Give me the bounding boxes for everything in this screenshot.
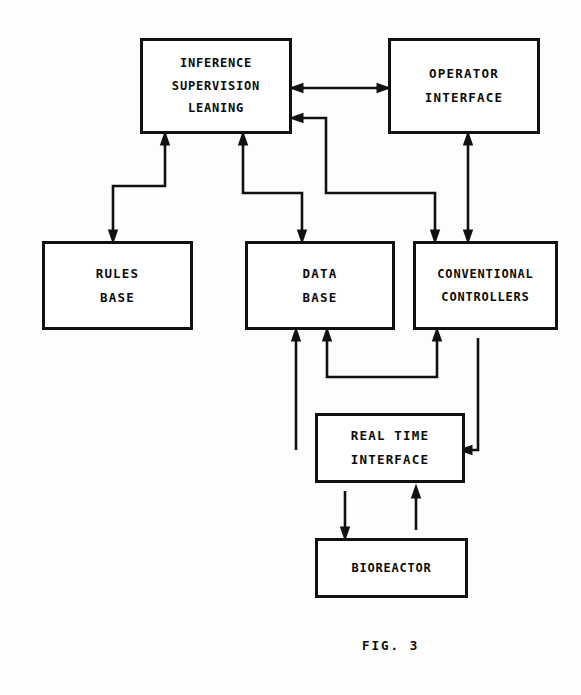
node-operator_interface-line: INTERFACE bbox=[425, 86, 504, 110]
node-real_time_interface-line: REAL TIME bbox=[351, 424, 430, 448]
edge-realtime-to-bioreactor bbox=[340, 491, 350, 542]
figure-label: FIG. 3 bbox=[362, 638, 419, 653]
node-inference-line: INFERENCE bbox=[180, 52, 252, 75]
edge-line bbox=[469, 338, 478, 450]
node-conventional_controllers-line: CONVENTIONAL bbox=[437, 263, 533, 286]
edge-bioreactor-to-realtime bbox=[411, 484, 421, 531]
edge-line bbox=[113, 142, 165, 233]
edge-inference-data-base bbox=[238, 131, 307, 245]
figure-canvas: INFERENCESUPERVISIONLEANINGOPERATORINTER… bbox=[0, 0, 581, 695]
node-data_base-line: DATA bbox=[303, 262, 338, 286]
node-conventional_controllers: CONVENTIONALCONTROLLERS bbox=[413, 241, 558, 330]
edge-inference-to-rules-base bbox=[108, 131, 170, 245]
node-inference: INFERENCESUPERVISIONLEANING bbox=[140, 38, 292, 134]
node-inference-line: SUPERVISION bbox=[172, 75, 260, 98]
edge-inference-operator-bidirectional bbox=[289, 83, 392, 93]
node-rules_base-line: RULES bbox=[96, 262, 140, 286]
edge-line bbox=[327, 338, 437, 377]
edge-line bbox=[243, 142, 302, 233]
node-bioreactor-line: BIOREACTOR bbox=[351, 557, 431, 580]
node-bioreactor: BIOREACTOR bbox=[315, 538, 468, 598]
node-data_base: DATABASE bbox=[245, 241, 395, 330]
node-rules_base-line: BASE bbox=[100, 286, 135, 310]
edge-operator-controllers-bidirectional bbox=[463, 131, 473, 245]
arrow-head-up bbox=[411, 484, 421, 499]
node-real_time_interface: REAL TIMEINTERFACE bbox=[315, 413, 465, 483]
edge-controllers-to-data-base bbox=[322, 327, 442, 378]
node-operator_interface-line: OPERATOR bbox=[429, 62, 499, 86]
edge-realtime-to-data-base-left bbox=[291, 327, 301, 451]
edge-line bbox=[300, 118, 435, 233]
node-rules_base: RULESBASE bbox=[42, 241, 193, 330]
node-real_time_interface-line: INTERFACE bbox=[351, 448, 430, 472]
node-conventional_controllers-line: CONTROLLERS bbox=[441, 286, 529, 309]
node-data_base-line: BASE bbox=[303, 286, 338, 310]
node-inference-line: LEANING bbox=[188, 97, 244, 120]
node-operator_interface: OPERATORINTERFACE bbox=[388, 38, 540, 134]
